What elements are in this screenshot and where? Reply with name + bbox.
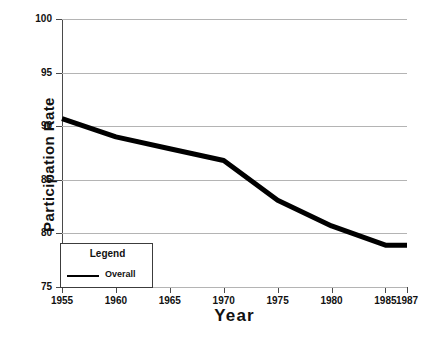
chart-figure: Participation Rate 1009590858075 1955196…: [0, 0, 433, 337]
y-tick-mark-100: [56, 19, 62, 20]
x-tick-mark-1985: [385, 288, 386, 293]
x-axis-title: Year: [62, 306, 407, 326]
x-tick-label-1987: 1987: [387, 296, 427, 306]
x-tick-mark-1980: [332, 288, 333, 293]
y-tick-mark-85: [56, 180, 62, 181]
x-tick-label-1970: 1970: [204, 296, 244, 306]
y-tick-label-85: 85: [18, 175, 52, 185]
x-tick-mark-1975: [278, 288, 279, 293]
y-tick-mark-90: [56, 126, 62, 127]
y-tick-label-90: 90: [18, 121, 52, 131]
y-tick-label-80: 80: [18, 228, 52, 238]
y-tick-mark-80: [56, 233, 62, 234]
x-tick-label-1975: 1975: [258, 296, 298, 306]
y-tick-label-95: 95: [18, 68, 52, 78]
legend-line-swatch: [67, 275, 99, 277]
x-tick-mark-1955: [62, 288, 63, 293]
x-tick-mark-1960: [116, 288, 117, 293]
y-tick-label-75: 75: [18, 282, 52, 292]
x-tick-mark-1970: [224, 288, 225, 293]
y-tick-mark-95: [56, 73, 62, 74]
y-tick-label-100: 100: [18, 14, 52, 24]
legend-title: Legend: [61, 248, 154, 259]
legend-box: Legend Overall: [60, 243, 153, 288]
x-tick-label-1980: 1980: [312, 296, 352, 306]
legend-item-overall: Overall: [61, 269, 154, 283]
x-tick-label-1965: 1965: [150, 296, 190, 306]
x-tick-label-1960: 1960: [96, 296, 136, 306]
legend-item-label: Overall: [105, 269, 136, 279]
x-tick-mark-1987: [407, 288, 408, 293]
x-tick-mark-1965: [170, 288, 171, 293]
x-tick-label-1955: 1955: [42, 296, 82, 306]
